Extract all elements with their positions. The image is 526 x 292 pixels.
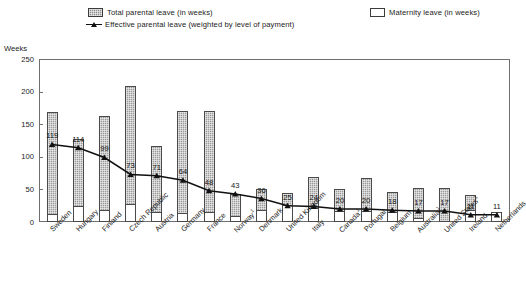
parental-leave-chart: Total parental leave (in weeks) Effectiv… (0, 0, 526, 292)
effective-parental-leave-line (0, 0, 526, 292)
